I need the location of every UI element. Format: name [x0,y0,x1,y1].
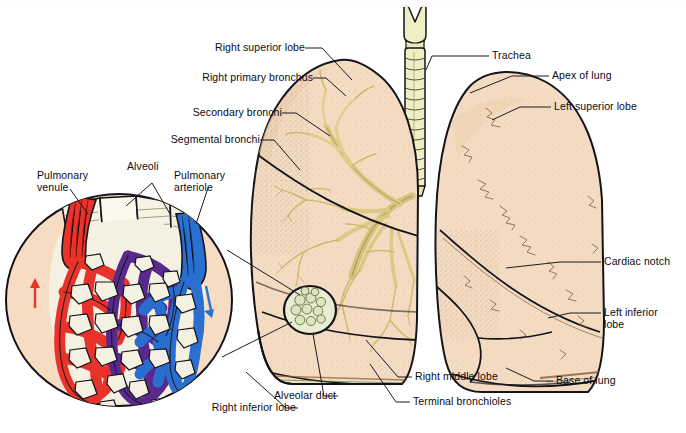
label-terminal-bronchioles: Terminal bronchioles [413,396,511,408]
label-secondary-bronchi: Secondary bronchi [120,107,282,119]
label-alveoli: Alveoli [127,161,159,173]
label-pulmonary-arteriole-line2: arteriole [174,182,213,194]
label-alveolar-duct: Alveolar duct [228,390,336,402]
label-pulmonary-venule-line2: venule [37,182,69,194]
label-segmental-bronchi: Segmental bronchi [110,134,260,146]
label-cardiac-notch: Cardiac notch [604,256,670,268]
label-left-superior-lobe: Left superior lobe [554,101,637,113]
label-trachea: Trachea [492,50,531,62]
label-right-inferior-lobe: Right inferior lobe [150,402,296,414]
lung-anatomy-illustration [0,0,686,433]
label-pulmonary-venule-line1: Pulmonary [37,170,88,182]
figure-canvas: Right superior lobe Right primary bronch… [0,0,686,433]
label-left-inferior-lobe-line2: lobe [604,319,624,331]
label-apex-of-lung: Apex of lung [552,70,612,82]
label-right-superior-lobe: Right superior lobe [120,42,305,54]
top-edge-artifact [0,0,686,7]
label-pulmonary-arteriole-line1: Pulmonary [174,170,225,182]
label-right-middle-lobe: Right middle lobe [415,371,498,383]
label-left-inferior-lobe-line1: Left inferior [604,307,658,319]
label-base-of-lung: Base of lung [556,375,616,387]
alveolar-cluster-callout [284,286,336,334]
label-right-primary-bronchus: Right primary bronchus [120,72,313,84]
